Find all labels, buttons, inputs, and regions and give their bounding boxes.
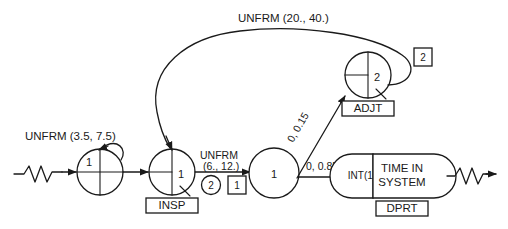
adjust-activity-number: 2 bbox=[420, 52, 426, 63]
depart-name-box[interactable]: DPRT bbox=[376, 201, 428, 216]
source-squiggle-icon bbox=[14, 166, 76, 182]
decision-node-count: 1 bbox=[271, 168, 277, 180]
collect-title-line2: SYSTEM bbox=[378, 176, 425, 188]
inspect-activity-marker: 1 bbox=[228, 176, 246, 194]
adjust-distribution-label: UNFRM (20., 40.) bbox=[238, 12, 329, 24]
inspect-name-box[interactable]: INSP bbox=[146, 198, 198, 213]
collect-node[interactable]: INT(1) TIME IN SYSTEM bbox=[330, 154, 456, 198]
inspect-servers-marker: 2 bbox=[202, 176, 221, 195]
branch-adjust-label: 0, 0.15 bbox=[284, 110, 311, 144]
collect-title-line1: TIME IN bbox=[381, 162, 423, 174]
network-diagram: 1 UNFRM (3.5, 7.5) 1 INSP UNFRM bbox=[0, 0, 508, 229]
collect-stat-label: INT(1) bbox=[348, 170, 376, 181]
adjust-node-count: 2 bbox=[374, 71, 380, 83]
adjust-name-label: ADJT bbox=[354, 102, 383, 114]
arrival-node-count: 1 bbox=[86, 156, 92, 168]
inspect-servers-count: 2 bbox=[208, 180, 214, 191]
arrival-node[interactable]: 1 bbox=[77, 149, 123, 195]
adjust-activity-marker: 2 bbox=[414, 48, 432, 66]
inspect-distribution-label: UNFRM (6., 12.) bbox=[200, 149, 239, 172]
inspect-activity-number: 1 bbox=[234, 180, 240, 191]
depart-name-label: DPRT bbox=[386, 202, 417, 214]
diagram-canvas: 1 UNFRM (3.5, 7.5) 1 INSP UNFRM bbox=[0, 0, 508, 229]
adjust-name-box[interactable]: ADJT bbox=[342, 101, 394, 116]
svg-text:(6., 12.): (6., 12.) bbox=[203, 160, 239, 172]
inspect-name-label: INSP bbox=[159, 199, 186, 211]
decision-node[interactable]: 1 bbox=[249, 148, 299, 198]
inspect-node[interactable]: 1 bbox=[149, 149, 195, 196]
adjust-node[interactable]: 2 bbox=[345, 52, 391, 99]
arrival-distribution-label: UNFRM (3.5, 7.5) bbox=[25, 130, 116, 142]
inspect-node-count: 1 bbox=[178, 168, 184, 180]
